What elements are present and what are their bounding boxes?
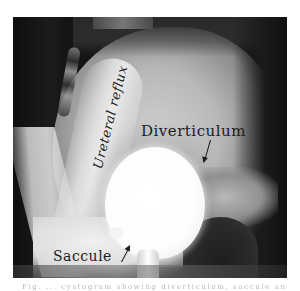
figure-caption: Fig. ... cystogram showing diverticulum,… xyxy=(22,283,287,291)
diverticulum-label: Diverticulum xyxy=(141,124,246,139)
top-strip xyxy=(93,17,153,29)
saccule-outpouching xyxy=(109,227,123,239)
bottom-band xyxy=(13,265,287,278)
radiograph-figure: Diverticulum Ureteral reflux Saccule xyxy=(13,17,287,278)
bladder-contrast xyxy=(105,147,205,259)
saccule-label: Saccule xyxy=(53,249,112,263)
